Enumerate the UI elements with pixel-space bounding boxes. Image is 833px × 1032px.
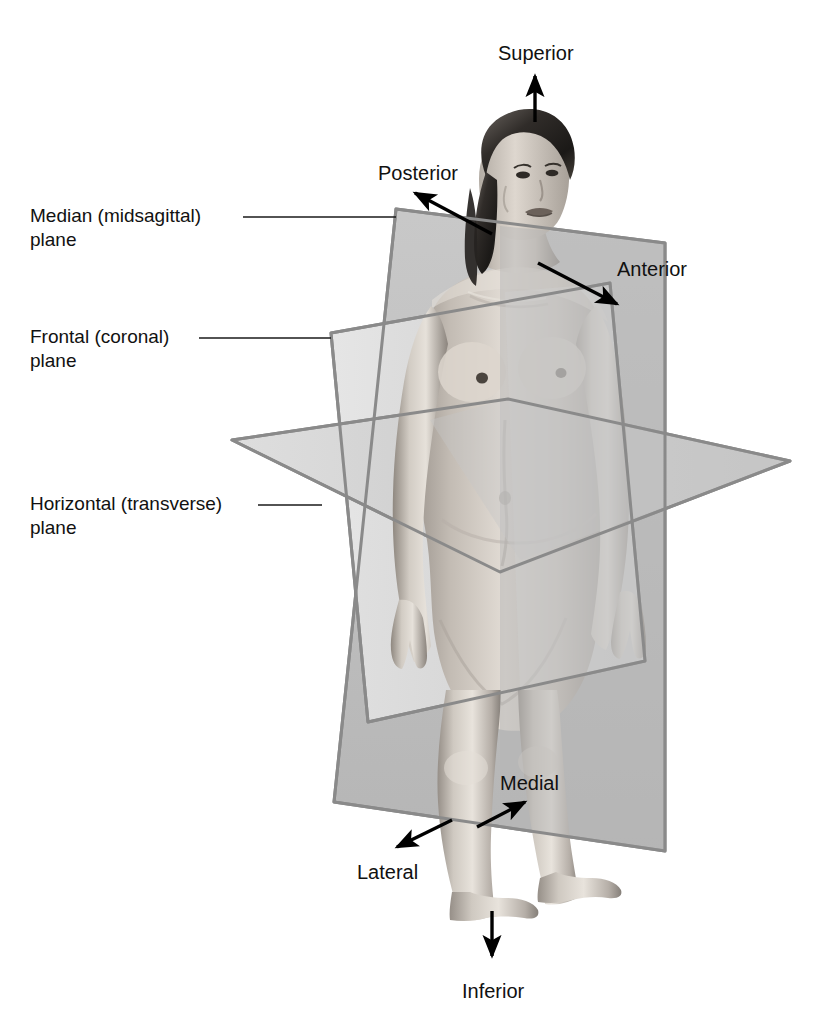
- label-anterior: Anterior: [617, 258, 687, 280]
- label-medial: Medial: [500, 772, 559, 794]
- label-lateral: Lateral: [357, 861, 418, 883]
- label-frontal-plane: Frontal (coronal) plane: [30, 325, 169, 373]
- label-horizontal-plane: Horizontal (transverse) plane: [30, 492, 222, 540]
- label-superior: Superior: [498, 42, 574, 64]
- label-median-plane: Median (midsagittal) plane: [30, 204, 201, 252]
- label-posterior: Posterior: [378, 162, 458, 184]
- label-inferior: Inferior: [462, 980, 524, 1002]
